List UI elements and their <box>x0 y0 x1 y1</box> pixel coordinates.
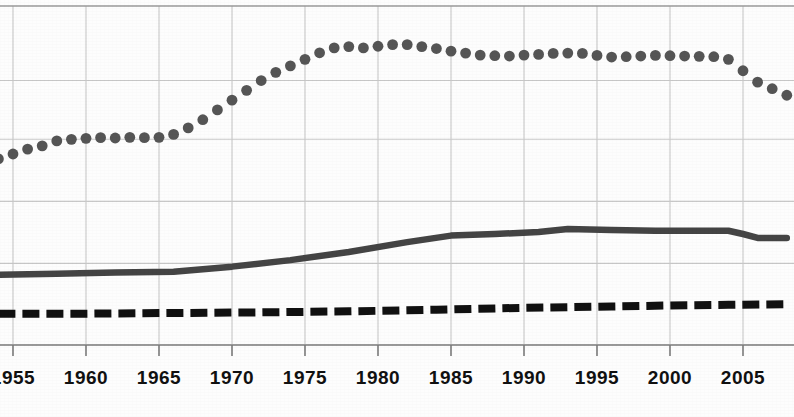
data-point <box>139 132 150 143</box>
data-point <box>402 39 413 50</box>
data-point <box>66 134 77 145</box>
data-point <box>212 105 223 116</box>
data-point <box>197 114 208 125</box>
data-point <box>37 140 48 151</box>
data-point <box>314 47 325 58</box>
data-point <box>300 54 311 65</box>
data-point <box>285 60 296 71</box>
data-point <box>183 122 194 133</box>
data-point <box>504 51 515 62</box>
data-point <box>343 41 354 52</box>
data-point <box>329 42 340 53</box>
x-tick-label-1955: 1955 <box>0 367 35 388</box>
x-tick-label-2000: 2000 <box>648 367 692 388</box>
x-tick-label-1980: 1980 <box>356 367 400 388</box>
x-axis-tick-marks <box>13 345 743 356</box>
x-tick-label-1965: 1965 <box>137 367 181 388</box>
x-tick-label-1975: 1975 <box>283 367 327 388</box>
x-tick-label-1990: 1990 <box>502 367 546 388</box>
data-point <box>22 144 33 155</box>
x-tick-label-1995: 1995 <box>575 367 619 388</box>
data-point <box>781 90 792 101</box>
data-point <box>708 51 719 62</box>
data-point <box>650 50 661 61</box>
data-point <box>95 132 106 143</box>
data-point <box>373 41 384 52</box>
data-point <box>606 52 617 63</box>
data-point <box>460 48 471 59</box>
data-point <box>767 83 778 94</box>
data-point <box>431 43 442 54</box>
data-point <box>416 41 427 52</box>
data-point <box>519 50 530 61</box>
data-point <box>270 67 281 78</box>
data-point <box>475 50 486 61</box>
data-point <box>679 51 690 62</box>
data-point <box>635 51 646 62</box>
data-point <box>51 136 62 147</box>
data-point <box>358 42 369 53</box>
data-point <box>227 95 238 106</box>
data-point <box>621 51 632 62</box>
data-point <box>694 51 705 62</box>
data-point <box>533 49 544 60</box>
data-point <box>723 54 734 65</box>
data-point <box>446 46 457 57</box>
data-point <box>124 132 135 143</box>
data-point <box>489 50 500 61</box>
x-axis-tick-labels: 1955196019651970197519801985199019952000… <box>0 367 765 388</box>
data-point <box>752 77 763 88</box>
data-point <box>548 48 559 59</box>
x-tick-label-2005: 2005 <box>721 367 765 388</box>
x-tick-label-1985: 1985 <box>429 367 473 388</box>
x-tick-label-1960: 1960 <box>64 367 108 388</box>
data-point <box>154 132 165 143</box>
data-point <box>8 149 19 160</box>
data-point <box>387 39 398 50</box>
data-point <box>168 129 179 140</box>
line-chart: 1955196019651970197519801985199019952000… <box>0 0 794 417</box>
data-point <box>241 85 252 96</box>
data-point <box>81 133 92 144</box>
chart-container: 1955196019651970197519801985199019952000… <box>0 0 794 417</box>
data-point <box>562 48 573 59</box>
data-point <box>256 75 267 86</box>
data-point <box>577 48 588 59</box>
x-tick-label-1970: 1970 <box>210 367 254 388</box>
data-point <box>665 50 676 61</box>
data-point <box>592 50 603 61</box>
data-point <box>738 65 749 76</box>
data-point <box>110 133 121 144</box>
